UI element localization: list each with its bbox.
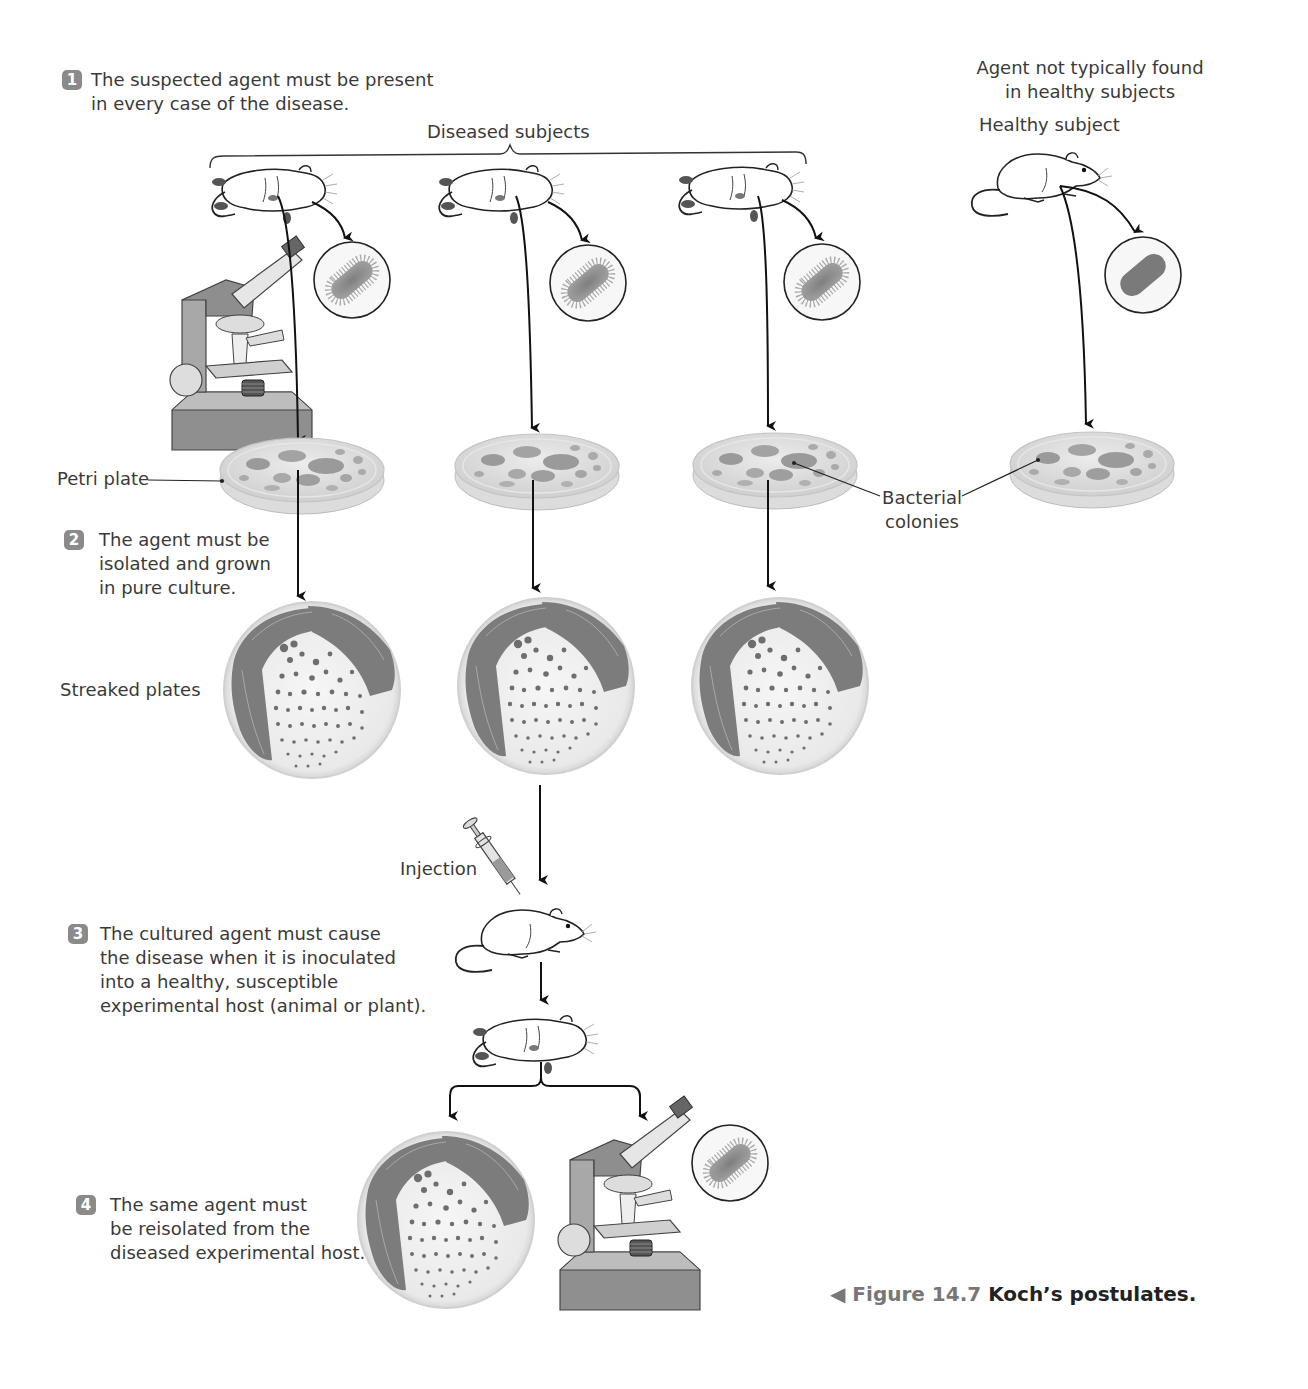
diseased-subjects-brace [210,145,806,168]
diseased-rat-3 [679,164,804,222]
bacterial-colonies-line-2: colonies [872,510,972,534]
reisolated-streaked-plate [358,1132,534,1308]
petri-plate-3 [693,433,857,509]
injected-rat [456,909,596,972]
bacterial-colonies-label: Bacterial colonies [872,486,972,534]
bacterium-icon-reisolated [692,1125,768,1201]
petri-plate-2 [455,434,619,510]
diseased-rat-2 [439,166,564,224]
healthy-note: Agent not typically found in healthy sub… [970,56,1210,104]
step-1-text: The suspected agent must be present in e… [91,68,434,116]
petri-plate-label: Petri plate [57,467,149,491]
streaked-plate-1 [224,602,400,778]
streaked-plate-3 [692,598,868,774]
healthy-note-line-2: in healthy subjects [970,80,1210,104]
step-2-badge: 2 [64,530,84,550]
left-triangle-icon: ◀ [830,1282,845,1306]
step-1-badge: 1 [62,70,82,90]
diseased-rat-1 [212,166,337,224]
diseased-subjects-label: Diseased subjects [427,120,590,144]
figure-caption: ◀ Figure 14.7 Koch’s postulates. [830,1282,1196,1306]
injection-label: Injection [400,857,477,881]
bacterial-colonies-line-1: Bacterial [872,486,972,510]
step-4-text: The same agent must be reisolated from t… [110,1193,365,1265]
experimental-diseased-rat [473,1016,598,1074]
petri-plate-healthy [1010,432,1174,508]
streaked-plate-2 [458,598,634,774]
healthy-subject-label: Healthy subject [979,113,1120,137]
figure-number: Figure 14.7 [852,1282,981,1306]
step-2-text: The agent must be isolated and grown in … [99,528,271,600]
bacterium-icon-healthy [1105,237,1181,313]
bacterium-icon-3 [784,244,860,320]
bacterium-icon-2 [550,245,626,321]
step-3-text: The cultured agent must cause the diseas… [100,922,426,1018]
healthy-note-line-1: Agent not typically found [970,56,1210,80]
petri-plate-1 [220,438,384,514]
step-4-badge: 4 [76,1195,96,1215]
healthy-rat [972,153,1112,216]
step-3-badge: 3 [68,924,88,944]
bacterium-icon-1 [314,242,390,318]
figure-title: Koch’s postulates. [988,1282,1196,1306]
streaked-plates-label: Streaked plates [60,678,201,702]
microscope-icon-2 [558,1096,700,1310]
